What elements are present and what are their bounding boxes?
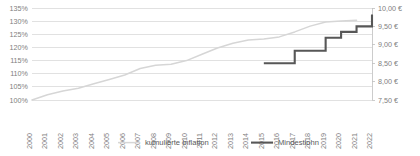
x-axis-tick-label: 2000 xyxy=(25,133,34,149)
x-axis-tick-label: 2015 xyxy=(257,133,266,149)
chart-container: 100%105%110%115%120%125%130%135% 7,50 €8… xyxy=(0,0,420,156)
x-axis-tick-label: 2022 xyxy=(365,133,374,149)
x-axis-tick-label: 2014 xyxy=(241,133,250,149)
left-axis-tick-label: 120% xyxy=(10,43,29,52)
x-axis-tick-label: 2012 xyxy=(210,133,219,149)
right-axis-tick-label: 8,50 € xyxy=(378,59,398,68)
x-axis-tick-label: 2005 xyxy=(102,133,111,149)
right-axis-tick-label: 9,00 € xyxy=(378,40,398,49)
series-line-mindestlohn xyxy=(264,15,372,64)
x-axis-tick-label: 2006 xyxy=(118,133,127,149)
right-axis-tick-label: 7,50 € xyxy=(378,96,398,105)
x-axis-tick-label: 2021 xyxy=(350,133,359,149)
x-axis-tick-label: 2002 xyxy=(56,133,65,149)
left-axis-tick-label: 130% xyxy=(10,17,29,26)
left-axis-tick-label: 100% xyxy=(10,96,29,105)
x-axis-tick-label: 2019 xyxy=(319,133,328,149)
x-axis-tick-label: 2013 xyxy=(226,133,235,149)
left-axis-tick-label: 135% xyxy=(10,4,29,13)
x-axis-tick-label: 2020 xyxy=(334,133,343,149)
left-axis-tick-label: 105% xyxy=(10,82,29,91)
left-axis-tick-label: 110% xyxy=(10,69,28,78)
legend-label-mindestlohn: Mindestlohn xyxy=(278,138,319,147)
right-axis-group: 7,50 €8,00 €8,50 €9,00 €9,50 €10,00 € xyxy=(372,4,402,105)
left-axis-tick-label: 125% xyxy=(10,30,29,39)
x-axis-tick-label: 2003 xyxy=(71,133,80,149)
legend-label-inflation: kumulierte Inflation xyxy=(145,138,209,147)
x-axis-tick-label: 2004 xyxy=(87,133,96,149)
left-axis-tick-label: 115% xyxy=(10,56,28,65)
x-axis-tick-label: 2007 xyxy=(133,133,142,149)
right-axis-tick-label: 10,00 € xyxy=(378,4,402,13)
left-axis-labels-group: 100%105%110%115%120%125%130%135% xyxy=(10,4,29,105)
x-axis-tick-label: 2001 xyxy=(40,133,49,149)
right-axis-tick-label: 8,00 € xyxy=(378,77,398,86)
dual-axis-line-chart: 100%105%110%115%120%125%130%135% 7,50 €8… xyxy=(0,0,420,156)
right-axis-tick-label: 9,50 € xyxy=(378,22,398,31)
